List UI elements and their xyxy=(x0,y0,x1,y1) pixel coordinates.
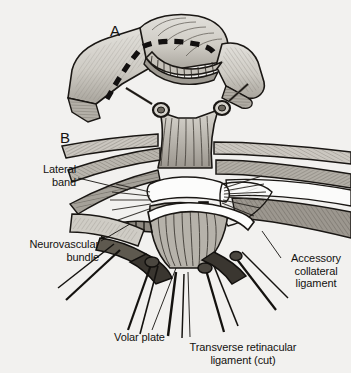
panel-label-b: B xyxy=(60,130,80,146)
label-neurovascular-bundle: Neurovascular bundle xyxy=(3,238,99,263)
label-accessory-collateral-ligament: Accessory collateral ligament xyxy=(283,252,349,290)
anatomical-figure: A B Lateral band Neurovascular bundle Ac… xyxy=(0,0,351,373)
suture-clamp-right xyxy=(198,263,212,273)
label-volar-plate: Volar plate xyxy=(114,331,184,344)
articular-surface-white xyxy=(147,177,229,202)
label-transverse-retinacular-ligament: Transverse retinacular ligament (cut) xyxy=(178,341,308,366)
panel-label-a: A xyxy=(110,23,130,39)
label-lateral-band: Lateral band xyxy=(6,163,76,188)
suture-clamp-left xyxy=(145,257,159,267)
suture-clamp-far-right xyxy=(230,252,242,261)
